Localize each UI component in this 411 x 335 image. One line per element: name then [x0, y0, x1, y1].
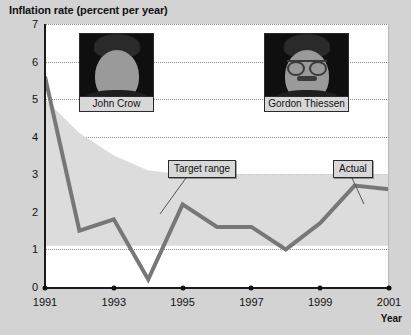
- callout-actual: Actual: [333, 160, 373, 178]
- callout-target-range: Target range: [168, 160, 236, 178]
- chart-container: Inflation rate (percent per year) 012345…: [0, 0, 411, 335]
